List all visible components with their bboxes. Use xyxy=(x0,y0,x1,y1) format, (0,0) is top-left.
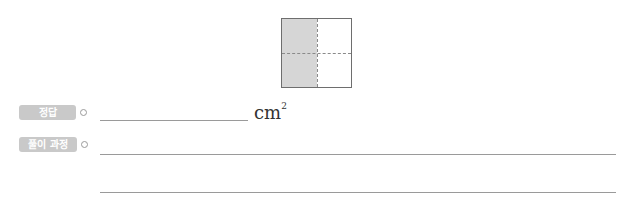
answer-label: 정답 xyxy=(19,105,76,120)
square-figure xyxy=(281,18,352,88)
answer-input-line[interactable] xyxy=(100,120,248,121)
solution-bullet-icon xyxy=(81,141,88,148)
solution-line-2[interactable] xyxy=(100,192,616,193)
solution-label: 풀이 과정 xyxy=(19,137,77,152)
solution-line-1[interactable] xyxy=(100,154,616,155)
horizontal-dashed-line xyxy=(282,53,351,54)
answer-bullet-icon xyxy=(80,109,87,116)
answer-unit: cm2 xyxy=(254,102,287,123)
